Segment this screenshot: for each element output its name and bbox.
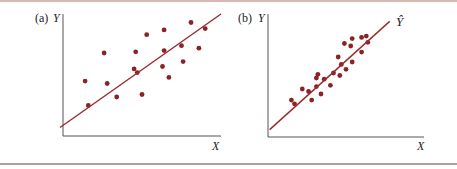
data-point [83,79,88,84]
data-point [140,92,145,97]
data-point [289,98,294,103]
data-point [309,98,314,103]
data-point [342,41,347,46]
data-point [114,95,119,100]
panel-a-regression-line [60,14,221,127]
data-point [337,73,342,78]
panel-a-points [83,20,208,108]
data-point [162,28,167,33]
data-point [336,55,341,60]
data-point [350,36,355,41]
bottom-rule [0,163,457,165]
data-point [348,44,353,49]
panel-a-x-label: X [212,139,219,154]
scatter-plots [0,0,457,169]
data-point [189,20,194,25]
data-point [132,67,137,72]
data-point [167,75,172,80]
data-point [133,49,138,54]
panel-b-plot [268,14,424,137]
data-point [160,64,165,69]
panel-b-points [289,34,370,107]
panel-b-yhat-label: Ŷ [396,14,403,30]
data-point [181,59,186,64]
panel-a-tag: (a) [35,11,48,26]
data-point [359,50,364,55]
data-point [102,51,107,56]
data-point [316,72,321,77]
panel-b-y-label: Y [258,11,265,26]
panel-b-x-label: X [417,139,424,154]
data-point [144,32,149,37]
panel-a-plot [60,14,221,136]
panel-b-tag: (b) [238,11,252,26]
data-point [344,67,349,72]
data-point [105,81,110,86]
data-point [179,43,184,48]
data-point [197,46,202,51]
data-point [319,92,324,97]
data-point [328,83,333,88]
panel-a-y-label: Y [53,11,60,26]
data-point [350,60,355,65]
panel-b-regression-line [270,21,390,129]
data-point [359,35,364,40]
data-point [300,87,305,92]
data-point [364,34,369,39]
